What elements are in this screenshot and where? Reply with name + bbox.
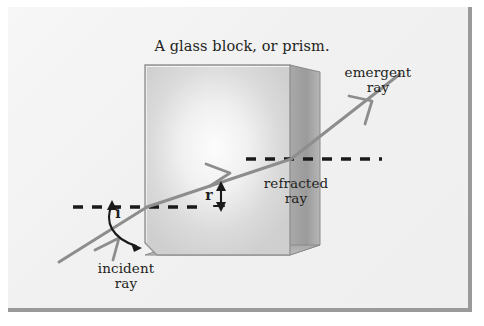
figure-container: A glass block, or prism. emergent ray re…	[0, 0, 484, 326]
angle-of-refraction-label: r	[202, 188, 216, 204]
incident-ray-label: incident ray	[82, 261, 170, 291]
incident-ray	[59, 207, 147, 262]
refracted-ray-label: refracted ray	[248, 176, 344, 206]
angle-of-incidence-label: i	[111, 206, 125, 222]
emergent-ray-label: emergent ray	[332, 65, 424, 95]
page-title: A glass block, or prism.	[0, 38, 484, 54]
incident-ray-arrowhead	[95, 238, 119, 260]
